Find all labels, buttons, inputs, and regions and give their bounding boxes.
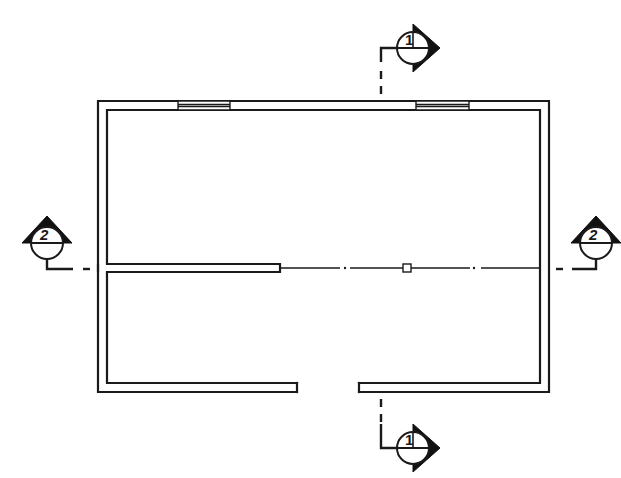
- section-number: 2: [39, 226, 49, 243]
- section-marker-1-bottom[interactable]: 1: [381, 399, 440, 472]
- window-right: [416, 101, 469, 110]
- section-label: 1: [405, 31, 413, 48]
- section-marker-1-top[interactable]: 1: [381, 24, 440, 94]
- column-marker: [403, 264, 411, 272]
- window-left: [178, 101, 230, 110]
- section-label: 1: [405, 431, 413, 448]
- section-marker-2-right[interactable]: 2: [556, 216, 621, 269]
- section-number: 2: [588, 226, 598, 243]
- exterior-walls: [98, 101, 549, 392]
- section-marker-2-left[interactable]: 2: [22, 216, 90, 269]
- partition-wall: [98, 264, 280, 272]
- floor-plan-drawing: 1 1 2 2: [0, 0, 621, 478]
